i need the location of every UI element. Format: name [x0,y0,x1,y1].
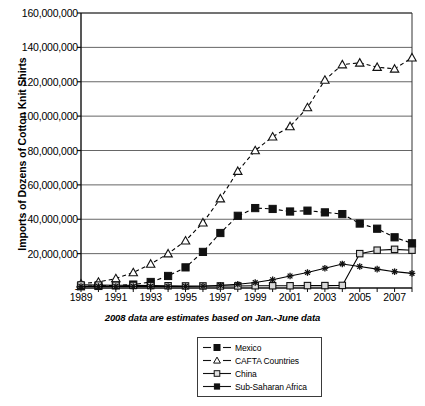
data-point-marker [269,205,276,212]
chart-footnote: 2008 data are estimates based on Jan.-Ju… [0,312,425,323]
chart-container: Imports of Dozens of Cotton Knit Shirts … [0,0,425,406]
data-point-marker [374,247,380,253]
data-point-marker [357,250,363,256]
series-line-cafta-countries [81,58,412,284]
data-point-marker [182,264,189,271]
data-point-marker [391,234,398,241]
legend-item-label: Mexico [235,343,261,353]
data-point-marker [234,212,241,219]
data-point-marker [217,229,224,236]
data-point-marker [252,204,259,211]
legend-item-label: Sub-Saharan Africa [235,382,307,392]
data-point-marker [129,268,137,275]
data-point-marker [408,53,416,60]
data-point-marker [287,283,293,289]
data-point-marker [321,76,329,83]
legend-key-filled-square-icon [202,342,232,353]
data-point-marker [269,283,275,289]
legend-item-label: China [235,369,257,379]
legend-key-open-triangle-icon [202,355,232,366]
data-point-marker [339,210,346,217]
data-point-marker [216,194,224,201]
data-point-marker [303,103,311,110]
data-point-marker [199,248,206,255]
data-point-marker [409,247,415,253]
data-point-marker [251,146,259,153]
data-point-marker [304,282,310,288]
data-point-marker [322,282,328,288]
data-point-marker [374,225,381,232]
legend-item-sub-saharan-africa[interactable]: Sub-Saharan Africa [202,380,317,393]
data-point-marker [268,133,276,140]
data-point-marker [304,207,311,214]
data-point-marker [165,272,172,279]
data-point-marker [391,246,397,252]
legend-item-label: CAFTA Countries [235,356,299,366]
data-point-marker [321,209,328,216]
legend-item-china[interactable]: China [202,367,317,380]
chart-legend: MexicoCAFTA CountriesChinaSub-Saharan Af… [197,337,322,397]
legend-item-cafta-countries[interactable]: CAFTA Countries [202,354,317,367]
data-point-marker [339,282,345,288]
data-point-marker [338,60,346,67]
legend-item-mexico[interactable]: Mexico [202,341,317,354]
data-point-marker [356,220,363,227]
data-point-marker [164,249,172,256]
data-point-marker [146,260,154,267]
data-point-marker [286,208,293,215]
legend-key-star-icon [202,381,232,392]
data-point-marker [356,59,364,66]
data-point-marker [408,240,415,247]
data-point-marker [390,65,398,72]
legend-key-open-square-icon [202,368,232,379]
